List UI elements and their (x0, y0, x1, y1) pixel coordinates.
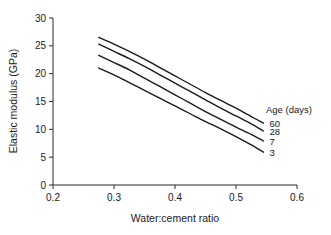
x-tick-label: 0.2 (46, 192, 60, 203)
series-curve-7 (99, 55, 264, 141)
y-tick-marks (49, 18, 53, 185)
x-tick-labels: 0.20.30.40.50.6 (46, 192, 304, 203)
x-tick-label: 0.5 (229, 192, 243, 203)
x-tick-label: 0.4 (168, 192, 182, 203)
y-axis-title: Elastic modulus (GPa) (7, 49, 19, 153)
y-tick-labels: 051015202530 (35, 13, 47, 191)
legend-title: Age (days) (266, 104, 312, 115)
y-tick-label: 10 (35, 124, 47, 135)
legend-label-3: 3 (269, 147, 274, 158)
y-tick-label: 0 (40, 180, 46, 191)
y-tick-label: 20 (35, 68, 47, 79)
y-tick-label: 15 (35, 96, 47, 107)
series-curve-28 (99, 44, 264, 131)
legend-label-7: 7 (269, 136, 274, 147)
chart-plot-area: 051015202530 0.20.30.40.50.6 602873 Wate… (0, 0, 331, 235)
y-tick-label: 30 (35, 13, 47, 24)
x-tick-label: 0.6 (290, 192, 304, 203)
x-tick-label: 0.3 (107, 192, 121, 203)
chart-figure: 051015202530 0.20.30.40.50.6 602873 Wate… (0, 0, 331, 235)
y-tick-label: 25 (35, 40, 47, 51)
y-tick-label: 5 (40, 152, 46, 163)
x-tick-marks (53, 185, 297, 189)
x-axis-title: Water:cement ratio (131, 212, 219, 224)
series-curves (99, 37, 264, 152)
legend-series-labels: 602873 (269, 118, 280, 158)
